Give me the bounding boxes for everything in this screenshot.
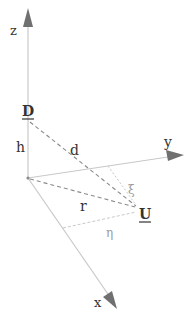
- x-arrowhead-icon: [103, 291, 117, 309]
- segment-r-label: r: [80, 198, 87, 214]
- y-arrowhead-icon: [166, 150, 184, 161]
- z-axis-label: z: [10, 23, 17, 38]
- segment-h-label: h: [16, 139, 25, 155]
- y-axis: [28, 150, 184, 178]
- x-axis-label: x: [94, 295, 102, 310]
- origin-point: [26, 176, 29, 179]
- coordinate-diagram: z y x D U h d r ξ η: [0, 0, 195, 322]
- z-arrowhead-icon: [23, 8, 33, 27]
- y-axis-label: y: [163, 134, 172, 150]
- segment-eta: [63, 212, 136, 228]
- segment-d-label: d: [70, 142, 79, 158]
- point-u-label: U: [139, 206, 151, 222]
- point-d-label: D: [22, 103, 34, 119]
- segment-eta-label: η: [106, 226, 113, 240]
- x-axis: [28, 178, 117, 309]
- segment-xi-label: ξ: [128, 183, 135, 197]
